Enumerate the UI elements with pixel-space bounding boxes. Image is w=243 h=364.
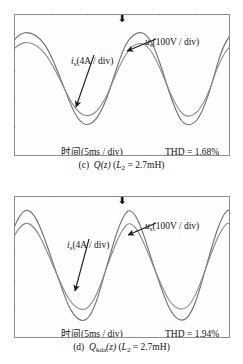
voltage-scale-label-c: us(100V / div) xyxy=(145,37,199,51)
caption-symbol-c: Q xyxy=(94,160,101,170)
panel-caption-d: (d) Qkda(z) (L2 = 2.7mH) xyxy=(0,341,243,356)
caption-cond-subscript-c: 2 xyxy=(122,164,126,172)
thd-value-c: THD = 1.68% xyxy=(165,147,219,156)
waveform-traces-d xyxy=(15,197,229,337)
scope-plot-area-d: ⬇ xyxy=(15,197,229,337)
trigger-marker-icon: ⬇ xyxy=(117,196,126,205)
current-scale-label-c: is(4A / div) xyxy=(71,56,113,70)
caption-index-d: (d) xyxy=(73,342,84,352)
time-axis-label-d: 时间(5ms / div) xyxy=(61,329,123,338)
caption-arg-d: (z) xyxy=(106,342,116,352)
caption-index-c: (c) xyxy=(79,160,90,170)
waveform-traces-c xyxy=(15,15,229,155)
figure-panel-d: ⬇ is(4A / div) us(100V / div) 时间(5ms / d… xyxy=(0,182,243,364)
voltage-units-d: (100V / div) xyxy=(152,221,199,231)
current-scale-label-d: is(4A / div) xyxy=(67,240,109,254)
figure-panel-c: ⬇ is(4A / div) us(100V / div) 时间(5ms / d… xyxy=(0,0,243,182)
caption-subscript-d: kda xyxy=(96,346,106,354)
caption-symbol-d: Q xyxy=(89,342,96,352)
oscilloscope-screen-c: ⬇ is(4A / div) us(100V / div) 时间(5ms / d… xyxy=(14,14,230,156)
current-units-c: (4A / div) xyxy=(76,56,113,66)
voltage-units-c: (100V / div) xyxy=(152,37,199,47)
thd-value-d: THD = 1.94% xyxy=(165,329,219,338)
caption-arg-c: (z) xyxy=(101,160,111,170)
panel-caption-c: (c) Q(z) (L2 = 2.7mH) xyxy=(0,159,243,174)
caption-cond-subscript-d: 2 xyxy=(127,346,131,354)
oscilloscope-screen-d: ⬇ is(4A / div) us(100V / div) 时间(5ms / d… xyxy=(14,196,230,338)
current-units-d: (4A / div) xyxy=(72,240,109,250)
trigger-marker-icon: ⬇ xyxy=(117,14,126,23)
voltage-scale-label-d: us(100V / div) xyxy=(145,221,199,235)
scope-plot-area-c: ⬇ xyxy=(15,15,229,155)
caption-cond-value-d: = 2.7mH xyxy=(133,342,167,352)
figure-stack: ⬇ is(4A / div) us(100V / div) 时间(5ms / d… xyxy=(0,0,243,364)
time-axis-label-c: 时间(5ms / div) xyxy=(61,147,123,156)
caption-cond-value-c: = 2.7mH xyxy=(127,160,161,170)
